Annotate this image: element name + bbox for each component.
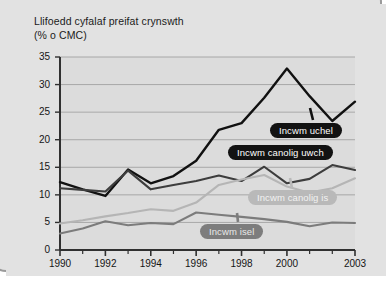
x-axis-tick-label: 2003 xyxy=(333,258,377,269)
chart-plot-area: 05101520253035 1990199219941996199820002… xyxy=(0,0,388,283)
x-axis-tick-label: 2000 xyxy=(265,258,309,269)
x-axis-tick-label: 1994 xyxy=(129,258,173,269)
y-axis-tick-label: 15 xyxy=(24,161,50,172)
callout-pointer xyxy=(237,213,238,222)
y-axis-tick-label: 35 xyxy=(24,51,50,62)
x-axis-tick-label: 1992 xyxy=(83,258,127,269)
y-axis-tick-label: 10 xyxy=(24,189,50,200)
y-axis-tick-label: 20 xyxy=(24,134,50,145)
callout-high-income: Incwm uchel xyxy=(270,123,342,138)
callout-low-income: Incwm isel xyxy=(200,224,263,239)
x-axis-tick-label: 1996 xyxy=(174,258,218,269)
chart-svg xyxy=(0,0,388,283)
y-axis-tick-label: 0 xyxy=(24,244,50,255)
callout-pointer xyxy=(310,108,313,120)
x-axis-tick-label: 1990 xyxy=(38,258,82,269)
y-axis-tick-label: 5 xyxy=(24,216,50,227)
x-axis-tick-label: 1998 xyxy=(220,258,264,269)
chart-screenshot: Llifoedd cyfalaf preifat crynswth (% o C… xyxy=(0,0,388,283)
series-line xyxy=(60,165,355,191)
callout-upper-middle: Incwm canolig uwch xyxy=(228,145,333,160)
y-axis-tick-label: 25 xyxy=(24,106,50,117)
callout-lower-middle: Incwm canolig is xyxy=(248,190,337,205)
y-axis-tick-label: 30 xyxy=(24,79,50,90)
